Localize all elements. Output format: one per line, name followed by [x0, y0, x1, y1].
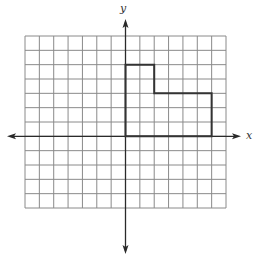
- x-axis-label: x: [246, 130, 252, 141]
- y-axis-label: y: [120, 3, 126, 14]
- grid-plot: [0, 0, 262, 259]
- coordinate-plane: y x: [0, 0, 262, 259]
